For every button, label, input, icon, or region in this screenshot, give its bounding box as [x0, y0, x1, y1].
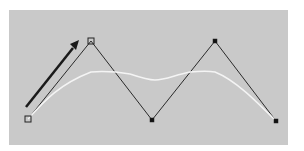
filled-square-icon-p2	[150, 118, 154, 122]
filled-square-icon-p4	[274, 119, 278, 123]
bezier-diagram	[0, 0, 304, 151]
filled-square-icon-p3	[213, 39, 217, 43]
